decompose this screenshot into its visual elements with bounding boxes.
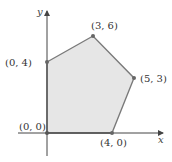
vertex-dot-5-3: [132, 76, 136, 80]
vertex-label-0-4: (0, 4): [5, 57, 32, 68]
vertex-dot-3-6: [91, 34, 95, 38]
vertex-dot-0-4: [45, 60, 49, 64]
vertex-label-3-6: (3, 6): [91, 20, 118, 31]
vertex-label-5-3: (5, 3): [140, 73, 167, 84]
y-axis-label: y: [36, 6, 43, 17]
vertex-label-0-0: (0, 0): [19, 121, 46, 132]
vertex-label-4-0: (4, 0): [100, 137, 127, 148]
feasible-region: [47, 36, 134, 133]
polygon-diagram: x y (0, 0) (0, 4) (3, 6) (5, 3) (4, 0): [0, 0, 172, 162]
x-axis-label: x: [158, 134, 164, 145]
vertex-dot-4-0: [110, 131, 114, 135]
